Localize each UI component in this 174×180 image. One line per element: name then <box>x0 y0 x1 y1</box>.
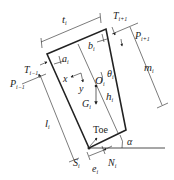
label-alpha: α <box>127 136 133 147</box>
label-m: mi <box>144 61 154 74</box>
label-x: x <box>62 73 68 84</box>
t-dimension-line <box>41 17 100 42</box>
label-T-left: Ti−1 <box>24 64 38 76</box>
label-b: bi <box>88 40 95 52</box>
label-l: li <box>45 117 50 130</box>
block-outline <box>47 29 126 148</box>
label-O: Oi <box>95 74 105 87</box>
label-P-top: Pi+1 <box>134 30 150 42</box>
label-S: Si <box>73 157 80 169</box>
block-diagram: ti Ti+1 Pi+1 bi ai Ti−1 Pi−1 θi mi x y O… <box>0 0 174 180</box>
label-G: Gi <box>82 98 91 110</box>
toe-point <box>88 147 91 150</box>
alpha-arc <box>120 135 123 148</box>
label-theta: θi <box>107 68 114 80</box>
label-P-left: Pi−1 <box>9 78 25 90</box>
label-N: Ni <box>107 157 117 169</box>
label-t: ti <box>62 13 67 26</box>
label-a: ai <box>62 53 69 65</box>
x-axis-arrow <box>71 73 81 77</box>
label-e: ei <box>92 163 98 175</box>
label-y: y <box>78 83 84 94</box>
y-axis-arrow <box>81 73 83 82</box>
label-toe: Toe <box>93 124 108 135</box>
label-h: hi <box>106 90 114 103</box>
label-T-top: Ti+1 <box>113 10 127 22</box>
